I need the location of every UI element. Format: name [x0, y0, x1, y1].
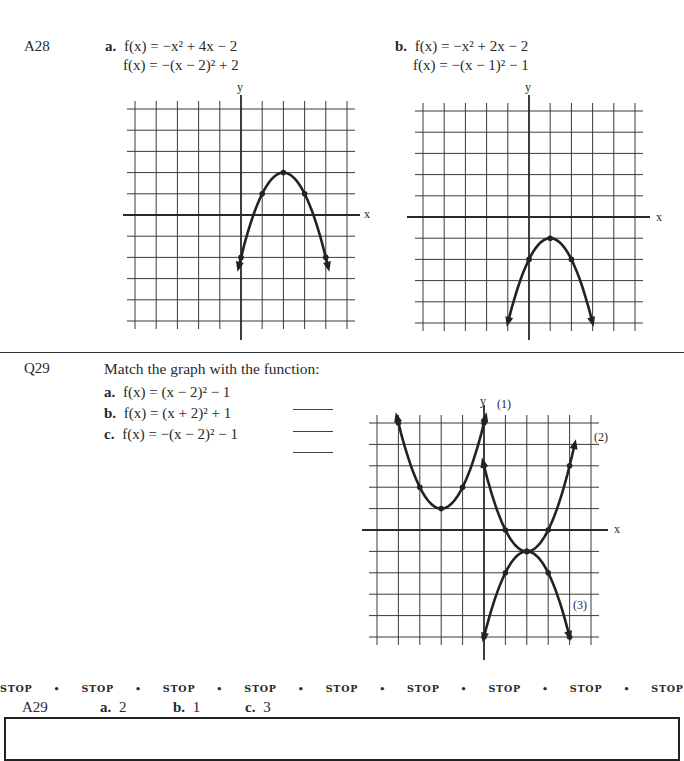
curve-label-3: (3) [573, 598, 587, 613]
y-axis-label: y [480, 394, 486, 409]
curve-label-2: (2) [594, 430, 608, 445]
bullet: • [461, 683, 468, 694]
bullet: • [298, 683, 305, 694]
bullet: • [542, 683, 549, 694]
answer-letter: a. [100, 699, 111, 715]
a29-answer-b: b. 1 [173, 699, 200, 716]
answer-value: 1 [193, 699, 201, 715]
a29-answer-c: c. 3 [245, 699, 271, 716]
bullet: • [623, 683, 630, 694]
stop-text: STOP [163, 683, 196, 694]
stop-text: STOP [326, 683, 359, 694]
a29-label: A29 [22, 699, 48, 716]
bullet: • [135, 683, 142, 694]
stop-text: STOP [81, 683, 114, 694]
stop-banner: STOP • STOP • STOP • STOP • STOP • STOP … [0, 683, 684, 694]
curve-label-1: (1) [497, 397, 511, 412]
answer-value: 3 [263, 699, 271, 715]
bullet: • [54, 683, 61, 694]
x-axis-label: x [614, 522, 620, 537]
stop-text: STOP [570, 683, 603, 694]
answer-letter: c. [245, 699, 255, 715]
stop-text: STOP [244, 683, 277, 694]
next-frame-box [4, 717, 680, 761]
stop-text: STOP [488, 683, 521, 694]
bullet: • [379, 683, 386, 694]
answer-letter: b. [173, 699, 185, 715]
parabola-curve-2 [483, 443, 575, 551]
a29-answer-a: a. 2 [100, 699, 127, 716]
stop-text: STOP [0, 683, 33, 694]
stop-text: STOP [651, 683, 684, 694]
answer-value: 2 [119, 699, 127, 715]
stop-text: STOP [407, 683, 440, 694]
bullet: • [216, 683, 223, 694]
